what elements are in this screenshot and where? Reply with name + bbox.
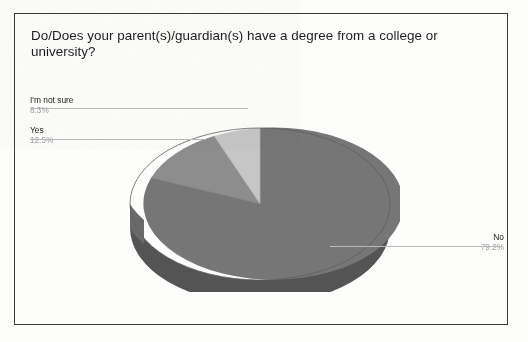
callout-yes-label: Yes: [30, 126, 108, 136]
chart-title: Do/Does your parent(s)/guardian(s) have …: [31, 28, 461, 60]
callout-yes-value: 12.5%: [30, 136, 108, 146]
callout-no-value: 79.2%: [446, 243, 504, 253]
callout-not-sure: I'm not sure 8.3%: [30, 96, 108, 116]
pie-chart-svg: [120, 92, 400, 292]
leader-line-yes: [30, 139, 206, 140]
callout-not-sure-label: I'm not sure: [30, 96, 108, 106]
callout-yes: Yes 12.5%: [30, 126, 108, 146]
leader-line-no: [330, 246, 502, 247]
chart-screenshot: Do/Does your parent(s)/guardian(s) have …: [0, 0, 528, 342]
leader-line-not-sure: [30, 108, 248, 109]
callout-no-label: No: [446, 233, 504, 243]
pie-chart: [120, 92, 400, 292]
callout-no: No 79.2%: [446, 233, 504, 253]
